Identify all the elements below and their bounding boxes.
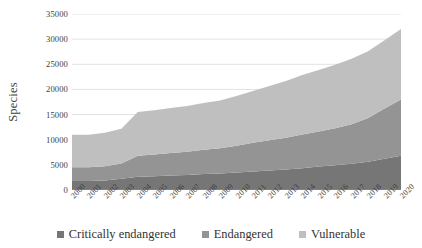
legend-item[interactable]: Critically endangered: [57, 227, 176, 242]
y-tick-label: 35000: [46, 9, 68, 19]
legend-label: Vulnerable: [311, 227, 365, 242]
y-tick-label: 25000: [46, 59, 68, 69]
legend-swatch-icon: [57, 231, 64, 238]
y-tick-label: 10000: [46, 135, 68, 145]
y-axis-tick-labels: 05000100001500020000250003000035000: [24, 14, 68, 190]
plot-svg: [72, 14, 401, 190]
plot-area: [72, 14, 401, 190]
chart-legend: Critically endangeredEndangeredVulnerabl…: [0, 224, 422, 244]
legend-swatch-icon: [202, 231, 209, 238]
area-series-group: [72, 29, 401, 190]
y-axis-title: Species: [6, 82, 21, 122]
stacked-area-chart: Species 05000100001500020000250003000035…: [0, 0, 422, 248]
y-tick-label: 15000: [46, 110, 68, 120]
x-axis-tick-labels: 2000200120022003200420052006200720082009…: [72, 192, 401, 226]
legend-label: Endangered: [214, 227, 273, 242]
legend-item[interactable]: Vulnerable: [299, 227, 365, 242]
legend-item[interactable]: Endangered: [202, 227, 273, 242]
y-tick-label: 30000: [46, 34, 68, 44]
legend-label: Critically endangered: [69, 227, 176, 242]
y-tick-label: 20000: [46, 84, 68, 94]
legend-swatch-icon: [299, 231, 306, 238]
y-tick-label: 0: [64, 185, 68, 195]
y-tick-label: 5000: [50, 160, 68, 170]
